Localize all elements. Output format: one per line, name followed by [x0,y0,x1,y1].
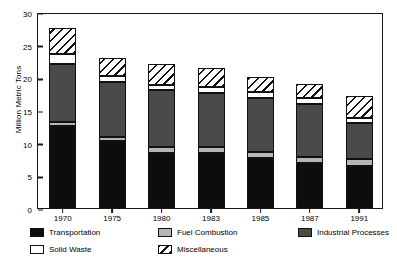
bar-1975 [99,12,126,208]
bar-segment-miscellaneous [49,28,76,54]
y-axis-tick-label: 0 [28,206,32,215]
legend-item-transportation[interactable]: Transportation [30,228,100,237]
y-axis-tick: 10 [23,140,38,149]
y-axis-tick-label: 5 [28,173,32,182]
x-axis-tick-mark [210,208,211,213]
y-axis-tick: 0 [28,206,38,215]
legend-swatch-miscellaneous [158,245,172,254]
y-axis-tick-mark [38,209,43,210]
x-axis-tick-mark [111,208,112,213]
x-axis-tick: 1970 [54,208,72,223]
legend-swatch-industrial-processes [298,228,312,237]
legend-label: Transportation [49,228,100,237]
bar-segment-industrial-processes [296,104,323,157]
y-axis-tick-label: 30 [23,10,32,19]
x-axis-tick: 1980 [153,208,171,223]
bar-1991 [346,12,373,208]
y-axis-tick-mark [38,46,43,47]
x-axis-tick-label: 1970 [54,214,72,223]
bar-segment-transportation [296,163,323,208]
bar-segment-miscellaneous [198,68,225,88]
x-axis-tick-label: 1985 [252,214,270,223]
x-axis-tick-label: 1983 [202,214,220,223]
y-axis-tick: 25 [23,42,38,51]
y-axis-tick-label: 15 [23,108,32,117]
y-axis-tick-mark [38,144,43,145]
plot-inner: 0510152025301970197519801983198519871991 [38,14,382,208]
legend-swatch-transportation [30,228,44,237]
bar-segment-miscellaneous [296,84,323,98]
bar-segment-industrial-processes [346,123,373,159]
legend-label: Solid Waste [49,245,91,254]
y-axis-tick-label: 20 [23,75,32,84]
legend-swatch-solid-waste [30,245,44,254]
plot-area: 0510152025301970197519801983198519871991 [37,13,383,209]
x-axis-tick-label: 1987 [301,214,319,223]
bar-segment-miscellaneous [247,77,274,91]
legend-item-solid-waste[interactable]: Solid Waste [30,245,91,254]
bar-segment-miscellaneous [346,96,373,118]
bar-1970 [49,12,76,208]
x-axis-tick-label: 1980 [153,214,171,223]
bar-segment-miscellaneous [99,58,126,76]
legend-label: Industrial Processes [317,228,389,237]
legend-label: Fuel Combustion [177,228,237,237]
y-axis-tick: 5 [28,173,38,182]
x-axis-tick-label: 1975 [103,214,121,223]
x-axis-tick-mark [161,208,162,213]
y-axis-tick-mark [38,13,43,14]
y-axis-tick-label: 10 [23,140,32,149]
y-axis-tick-mark [38,79,43,80]
x-axis-tick-mark [309,208,310,213]
bar-segment-transportation [49,126,76,208]
y-axis-tick: 30 [23,10,38,19]
legend-item-industrial-processes[interactable]: Industrial Processes [298,228,389,237]
y-axis-tick-mark [38,111,43,112]
x-axis-tick-label: 1991 [350,214,368,223]
y-axis-tick: 20 [23,75,38,84]
bar-segment-solid-waste [49,54,76,64]
bar-segment-transportation [99,141,126,208]
y-axis-tick: 15 [23,108,38,117]
x-axis-tick: 1983 [202,208,220,223]
bar-segment-miscellaneous [148,64,175,85]
bar-segment-industrial-processes [247,98,274,153]
y-axis-tick-label: 25 [23,42,32,51]
bar-segment-transportation [247,158,274,208]
y-axis-title: Million Metric Tons [14,30,23,170]
x-axis-tick: 1975 [103,208,121,223]
bar-segment-industrial-processes [148,90,175,147]
legend-item-miscellaneous[interactable]: Miscellaneous [158,245,228,254]
legend-label: Miscellaneous [177,245,228,254]
bar-segment-transportation [198,153,225,208]
stacked-bar-chart: Million Metric Tons 05101520253019701975… [0,0,397,267]
bar-1987 [296,12,323,208]
bar-segment-industrial-processes [99,82,126,138]
x-axis-tick-mark [359,208,360,213]
legend-swatch-fuel-combustion [158,228,172,237]
chart-legend: TransportationFuel CombustionIndustrial … [30,228,392,262]
x-axis-tick: 1987 [301,208,319,223]
x-axis-tick-mark [62,208,63,213]
bar-1983 [198,12,225,208]
legend-item-fuel-combustion[interactable]: Fuel Combustion [158,228,237,237]
x-axis-tick: 1991 [350,208,368,223]
bar-1980 [148,12,175,208]
x-axis-tick: 1985 [252,208,270,223]
bar-1985 [247,12,274,208]
bar-segment-industrial-processes [198,93,225,147]
x-axis-tick-mark [260,208,261,213]
y-axis-tick-mark [38,177,43,178]
bar-segment-transportation [346,166,373,208]
bar-segment-transportation [148,153,175,208]
bar-segment-industrial-processes [49,64,76,122]
